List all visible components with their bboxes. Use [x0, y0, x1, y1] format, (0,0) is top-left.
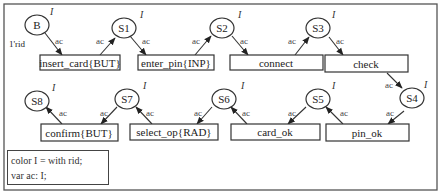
transition-connect: connect: [230, 55, 323, 70]
svg-text:S7: S7: [121, 93, 133, 105]
svg-text:ac: ac: [96, 36, 104, 46]
svg-text:insert_card{BUT}: insert_card{BUT}: [39, 57, 120, 69]
svg-text:ac: ac: [192, 36, 200, 46]
svg-text:S1: S1: [118, 22, 130, 34]
svg-text:ac: ac: [100, 108, 108, 118]
svg-text:I: I: [139, 9, 144, 20]
svg-text:I: I: [49, 6, 54, 17]
svg-text:ac: ac: [340, 108, 348, 118]
transition-confirm: confirm{BUT}: [41, 124, 118, 141]
svg-text:ac: ac: [242, 108, 250, 118]
svg-text:S8: S8: [31, 95, 43, 107]
svg-text:pin_ok: pin_ok: [352, 127, 383, 139]
place-S2: S2 I: [210, 9, 242, 38]
transition-check: check: [325, 55, 408, 72]
place-S6: S6 I: [212, 80, 245, 109]
svg-text:ac: ac: [194, 108, 202, 118]
svg-text:check: check: [353, 58, 379, 70]
svg-text:connect: connect: [259, 57, 293, 69]
svg-text:select_op{RAD}: select_op{RAD}: [136, 126, 211, 138]
declaration-var: var ac: I;: [11, 168, 105, 183]
transition-card-ok: card_ok: [231, 124, 320, 140]
svg-text:I: I: [237, 9, 242, 20]
svg-text:ac: ac: [55, 36, 63, 46]
svg-text:I: I: [51, 82, 56, 93]
svg-text:I: I: [423, 79, 428, 90]
place-S3: S3 I: [306, 9, 336, 38]
svg-text:B: B: [33, 19, 40, 31]
svg-text:ac: ac: [142, 36, 150, 46]
svg-text:ac: ac: [288, 108, 296, 118]
transition-select-op: select_op{RAD}: [130, 124, 218, 140]
place-S7: S7 I: [115, 80, 147, 109]
svg-text:I: I: [331, 80, 336, 91]
svg-text:ac: ac: [386, 108, 394, 118]
svg-text:ac: ac: [336, 36, 344, 46]
svg-text:enter_pin{INP}: enter_pin{INP}: [141, 57, 211, 69]
place-S1: S1 I: [112, 9, 144, 38]
transition-enter-pin: enter_pin{INP}: [138, 55, 214, 70]
declaration-color: color I = with rid;: [11, 153, 105, 168]
transition-insert-card: insert_card{BUT}: [39, 55, 120, 70]
arc-t3-S3: [295, 37, 309, 55]
svg-text:ac: ac: [240, 36, 248, 46]
svg-text:card_ok: card_ok: [257, 126, 293, 138]
declarations-box: color I = with rid; var ac: I;: [7, 150, 109, 185]
initial-marking: 1'rid: [9, 39, 26, 49]
svg-text:I: I: [240, 80, 245, 91]
svg-text:ac: ac: [146, 108, 154, 118]
svg-text:S2: S2: [216, 22, 228, 34]
place-B: B I: [25, 6, 54, 35]
place-S4: S4 I: [400, 79, 428, 108]
svg-text:I: I: [142, 80, 147, 91]
svg-text:I: I: [331, 9, 336, 20]
svg-text:ac: ac: [288, 36, 296, 46]
svg-text:S6: S6: [218, 93, 230, 105]
svg-text:ac: ac: [59, 108, 67, 118]
place-S5: S5 I: [306, 80, 336, 109]
transition-pin-ok: pin_ok: [326, 124, 409, 141]
place-S8: S8 I: [25, 82, 56, 111]
svg-text:S3: S3: [312, 22, 324, 34]
svg-text:ac: ac: [385, 80, 393, 90]
svg-text:S4: S4: [406, 92, 418, 104]
svg-text:S5: S5: [312, 93, 324, 105]
svg-text:confirm{BUT}: confirm{BUT}: [45, 127, 112, 139]
